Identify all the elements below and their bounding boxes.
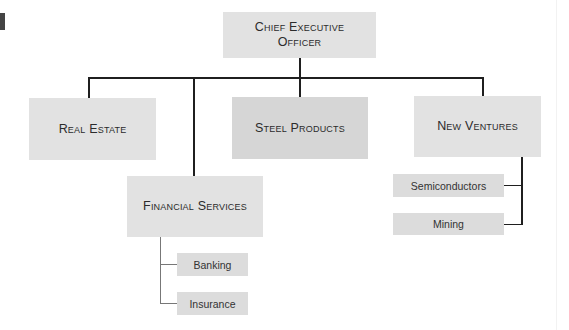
node-ceo-label-line1: Chief Executive: [255, 20, 344, 35]
node-steel-products-label: Steel Products: [255, 121, 345, 136]
node-semiconductors: Semiconductors: [393, 174, 504, 197]
connector-ceo-down: [299, 58, 301, 78]
connector-nv-sub-vertical: [521, 157, 523, 225]
connector-banking: [160, 264, 177, 265]
node-mining: Mining: [393, 213, 504, 235]
connector-insurance: [160, 303, 177, 304]
page-edge: [556, 0, 557, 330]
connector-fs-sub-vertical: [160, 237, 161, 304]
node-insurance-label: Insurance: [189, 298, 235, 310]
node-insurance: Insurance: [177, 292, 248, 315]
node-real-estate-label: Real Estate: [59, 122, 127, 137]
connector-real-estate: [88, 77, 90, 98]
node-semiconductors-label: Semiconductors: [411, 180, 486, 192]
node-ceo: Chief Executive Officer: [223, 12, 376, 58]
node-financial-services-label: Financial Services: [143, 199, 247, 214]
connector-semiconductors: [504, 185, 522, 186]
connector-financial-services: [193, 77, 195, 176]
node-banking: Banking: [177, 253, 248, 276]
connector-horizontal-bar: [88, 77, 484, 79]
node-banking-label: Banking: [194, 259, 232, 271]
node-new-ventures: New Ventures: [414, 96, 541, 157]
node-steel-products: Steel Products: [232, 97, 368, 159]
node-real-estate: Real Estate: [29, 98, 156, 160]
node-mining-label: Mining: [433, 218, 464, 230]
connector-mining: [504, 224, 522, 225]
connector-steel-products: [299, 77, 301, 97]
node-financial-services: Financial Services: [127, 176, 263, 237]
connector-new-ventures: [482, 77, 484, 96]
node-new-ventures-label: New Ventures: [437, 119, 518, 134]
node-ceo-label-line2: Officer: [255, 35, 344, 50]
section-marker: [0, 13, 5, 30]
